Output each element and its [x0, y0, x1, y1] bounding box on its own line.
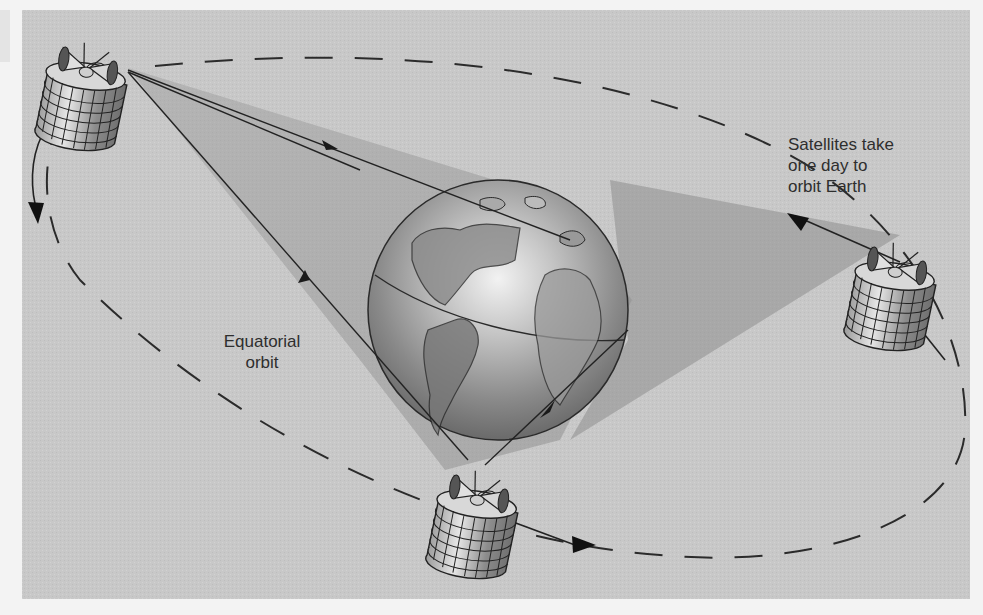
orbit-type-line-2: orbit [222, 352, 302, 373]
orbit-period-line-3: orbit Earth [788, 176, 894, 197]
orbit-period-line-2: one day to [788, 155, 894, 176]
diagram-canvas: Satellites take one day to orbit Earth E… [0, 0, 983, 615]
orbit-period-label: Satellites take one day to orbit Earth [788, 134, 894, 197]
orbit-type-label: Equatorial orbit [222, 331, 302, 373]
orbit-period-line-1: Satellites take [788, 134, 894, 155]
orbit-type-line-1: Equatorial [222, 331, 302, 352]
earth-globe [368, 180, 628, 440]
